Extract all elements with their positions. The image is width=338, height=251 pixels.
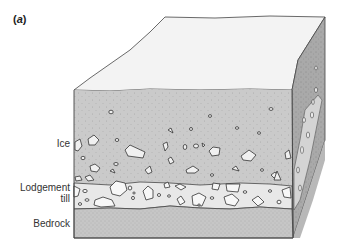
label-lodgement-till: Lodgement till (20, 182, 70, 204)
bedrock-layer (74, 206, 293, 238)
panel-label-close: ) (23, 13, 27, 25)
label-ice: Ice (57, 138, 70, 149)
till-layer (74, 181, 292, 209)
top-face (74, 16, 325, 91)
label-bedrock: Bedrock (33, 218, 70, 229)
label-lodgement-line2: till (20, 193, 70, 204)
panel-label: (a) (13, 13, 26, 25)
label-lodgement-line1: Lodgement (20, 182, 70, 193)
ice-layer (74, 89, 292, 186)
glacier-block-diagram (0, 0, 338, 251)
